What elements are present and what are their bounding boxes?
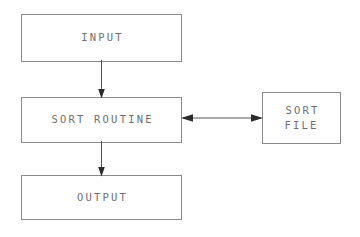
edge-sort-routine-to-output: [93, 141, 110, 177]
arrowhead-right-icon: [251, 114, 263, 121]
node-sort-routine[interactable]: SORT ROUTINE: [21, 97, 182, 143]
node-output[interactable]: OUTPUT: [21, 175, 182, 220]
node-input-label: INPUT: [79, 30, 124, 45]
arrowhead-down-icon: [98, 167, 105, 177]
node-input[interactable]: INPUT: [21, 14, 182, 62]
arrowhead-left-icon: [181, 114, 193, 121]
edge-sort-routine-to-sort-file: [180, 108, 264, 128]
node-sort-file[interactable]: SORT FILE: [262, 92, 341, 144]
edge-input-to-sort-routine: [93, 60, 110, 99]
node-output-label: OUTPUT: [75, 190, 128, 205]
arrowhead-down-icon: [98, 89, 105, 99]
node-sort-routine-label: SORT ROUTINE: [49, 112, 153, 127]
node-sort-file-label: SORT FILE: [283, 103, 319, 133]
flowchart-diagram: INPUT SORT ROUTINE OUTPUT SORT FILE: [0, 0, 360, 237]
